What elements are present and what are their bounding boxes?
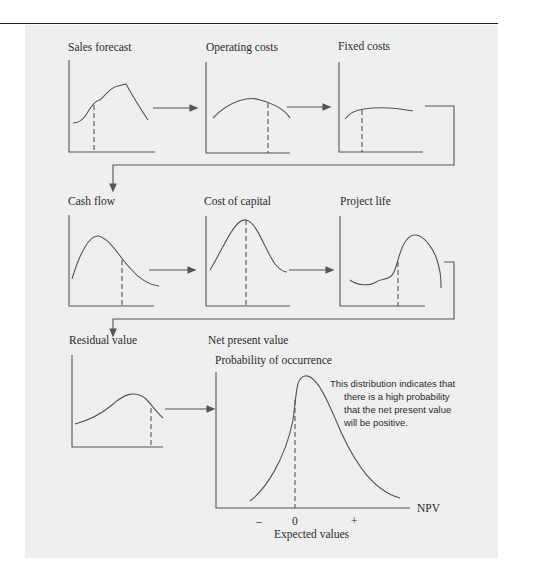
x-caption: Expected values (274, 528, 350, 541)
chart-project-life (340, 216, 441, 306)
chart-sales-forecast (69, 60, 155, 152)
annotation-line-2: there is a high probability (344, 391, 450, 402)
chart-fixed-costs (339, 62, 423, 152)
annotation-line-3: that the net present value (344, 404, 451, 415)
annotation-line-4: will be positive. (343, 417, 408, 428)
chart-cash-flow (69, 215, 159, 306)
label-net-present-value: Net present value (208, 334, 288, 347)
connector-1 (113, 106, 454, 187)
tick-minus: – (255, 515, 262, 527)
label-cost-of-capital: Cost of capital (204, 195, 271, 208)
label-residual-value: Residual value (69, 334, 137, 346)
annotation-line-1: This distribution indicates that (330, 378, 456, 389)
chart-operating-costs (206, 62, 290, 153)
tick-plus: + (351, 515, 358, 527)
label-operating-costs: Operating costs (206, 41, 278, 54)
simulation-diagram: Sales forecast Operating costs Fixed cos… (0, 0, 546, 582)
label-cash-flow: Cash flow (68, 195, 116, 207)
chart-residual-value (72, 355, 163, 447)
chart-cost-of-capital (206, 216, 290, 306)
tick-zero: 0 (292, 515, 298, 527)
label-sales-forecast: Sales forecast (68, 41, 132, 53)
label-probability: Probability of occurrence (215, 354, 332, 367)
label-project-life: Project life (340, 195, 391, 208)
connector-2 (113, 262, 454, 332)
label-fixed-costs: Fixed costs (338, 40, 391, 52)
axis-label-npv: NPV (417, 502, 441, 514)
